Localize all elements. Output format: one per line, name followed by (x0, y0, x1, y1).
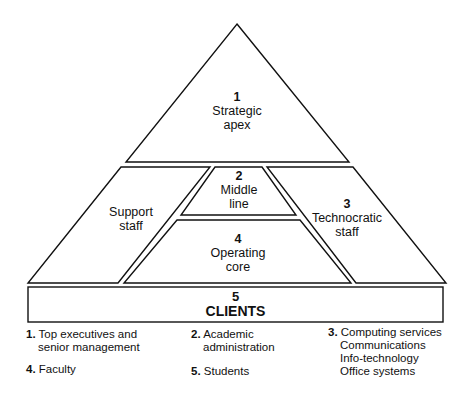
legend-text: Academic (203, 328, 254, 340)
middle-line-label: 2 Middle line (208, 169, 270, 211)
technocratic-staff-number: 3 (302, 197, 392, 211)
legend-text: administration (191, 341, 275, 354)
middle-line-text-2: line (208, 197, 270, 211)
legend-number: 1. (26, 328, 36, 340)
legend-text: senior management (26, 341, 140, 354)
legend-number: 3. (328, 326, 338, 338)
technocratic-staff-text-2: staff (302, 225, 392, 239)
legend-item-3: 3. Computing services Communications Inf… (328, 326, 442, 378)
operating-core-label: 4 Operating core (198, 232, 278, 274)
clients-text: CLIENTS (28, 304, 443, 319)
legend-text: Top executives and (39, 328, 137, 340)
technocratic-staff-label: 3 Technocratic staff (302, 197, 392, 239)
legend-number: 4. (26, 363, 36, 375)
middle-line-number: 2 (208, 169, 270, 183)
legend-text: Info-technology (328, 352, 442, 365)
operating-core-number: 4 (198, 232, 278, 246)
legend-text: Office systems (328, 365, 442, 378)
legend-text: Faculty (39, 363, 76, 375)
strategic-apex-text-1: Strategic (197, 104, 277, 118)
support-staff-text-1: Support (96, 205, 166, 219)
legend-text: Students (204, 365, 249, 377)
technocratic-staff-text-1: Technocratic (302, 211, 392, 225)
strategic-apex-text-2: apex (197, 118, 277, 132)
legend-number: 5. (191, 365, 201, 377)
operating-core-text-1: Operating (198, 246, 278, 260)
legend-item-1: 1. Top executives and senior management (26, 328, 140, 354)
strategic-apex-number: 1 (197, 90, 277, 104)
legend-number: 2. (191, 328, 201, 340)
middle-line-text-1: Middle (208, 183, 270, 197)
legend-text: Communications (328, 339, 442, 352)
legend-text: Computing services (341, 326, 442, 338)
support-staff-label: Support staff (96, 205, 166, 233)
support-staff-text-2: staff (96, 219, 166, 233)
legend-item-5: 5. Students (191, 365, 249, 378)
legend-item-4: 4. Faculty (26, 363, 76, 376)
clients-number: 5 (28, 287, 443, 304)
clients-label: 5 CLIENTS (28, 287, 443, 322)
operating-core-text-2: core (198, 260, 278, 274)
strategic-apex-label: 1 Strategic apex (197, 90, 277, 132)
legend-item-2: 2. Academic administration (191, 328, 275, 354)
